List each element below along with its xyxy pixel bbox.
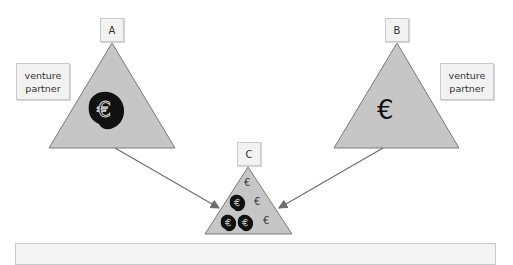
svg-text:€: € xyxy=(225,218,231,228)
svg-text:€: € xyxy=(242,218,248,228)
arrow-a-to-c xyxy=(115,148,219,208)
venture-partner-text: venture partner xyxy=(17,69,69,95)
node-label-c: C xyxy=(237,142,261,166)
node-label-text: C xyxy=(246,149,253,160)
node-label-a: A xyxy=(100,18,124,42)
svg-text:€: € xyxy=(234,198,240,208)
venture-partner-label-b: venture partner xyxy=(440,63,494,100)
euro-sign-icon: € xyxy=(244,177,250,188)
venture-partner-text: venture partner xyxy=(441,69,493,95)
arrow-b-to-c xyxy=(279,148,383,208)
euro-sign-icon: € xyxy=(377,95,394,125)
node-label-text: A xyxy=(109,25,116,36)
bottom-panel xyxy=(15,243,496,265)
euro-sign-icon: € xyxy=(254,196,260,207)
euro-sign-icon: € xyxy=(263,215,269,226)
svg-text:€: € xyxy=(97,97,111,122)
venture-partner-label-a: venture partner xyxy=(16,63,70,100)
node-label-b: B xyxy=(385,18,409,42)
node-label-text: B xyxy=(394,25,401,36)
